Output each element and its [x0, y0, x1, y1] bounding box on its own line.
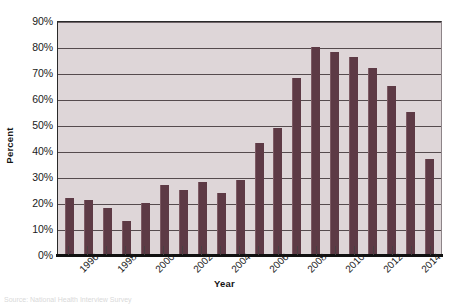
bar-series	[58, 22, 441, 255]
y-axis-tick-label: 30%	[32, 171, 53, 183]
plot-area	[57, 21, 442, 255]
bar-slot	[268, 22, 287, 255]
bar-slot	[60, 22, 79, 255]
bar-slot	[250, 22, 269, 255]
x-axis-tick-slot	[211, 246, 230, 255]
x-axis-tick-slot	[326, 246, 345, 255]
x-axis-tick-slot	[364, 246, 383, 255]
bar-slot	[306, 22, 325, 255]
bar	[292, 78, 301, 255]
bar	[387, 86, 396, 255]
x-axis-title: Year	[0, 278, 449, 289]
y-axis-tick-label: 60%	[32, 93, 53, 105]
y-axis-title: Percent	[2, 100, 16, 190]
x-axis-tick-slot	[288, 246, 307, 255]
bar-slot	[231, 22, 250, 255]
x-axis-tick-slot	[97, 246, 116, 255]
x-axis-tick-mark	[87, 246, 88, 255]
bar-slot	[363, 22, 382, 255]
x-axis-tick-mark	[335, 246, 336, 255]
x-axis-tick-mark	[220, 246, 221, 255]
bar	[406, 112, 415, 255]
bar	[198, 182, 207, 255]
bar	[425, 159, 434, 255]
bar	[349, 57, 358, 255]
x-axis-tick-mark	[373, 246, 374, 255]
bar	[311, 47, 320, 255]
x-axis-tick-mark	[258, 246, 259, 255]
y-axis-tick-label: 10%	[32, 223, 53, 235]
x-axis-tick-mark	[106, 246, 107, 255]
x-axis-tick-slot	[249, 246, 268, 255]
x-axis-tick-slot	[402, 246, 421, 255]
bar	[255, 143, 264, 255]
x-axis-tick-mark	[411, 246, 412, 255]
x-axis-tick-mark	[125, 246, 126, 255]
x-axis-tick-mark	[144, 246, 145, 255]
bar-slot	[212, 22, 231, 255]
x-axis-tick-marks	[57, 246, 442, 255]
bar-slot	[193, 22, 212, 255]
x-axis-tick-slot	[59, 246, 78, 255]
bar-slot	[136, 22, 155, 255]
bar-slot	[420, 22, 439, 255]
x-axis-tick-mark	[68, 246, 69, 255]
y-axis-title-text: Percent	[4, 127, 15, 163]
bar-slot	[98, 22, 117, 255]
y-axis-tick-label: 90%	[32, 15, 53, 27]
y-axis-tick-labels: 90%80%70%60%50%40%30%20%10%0%	[18, 14, 56, 262]
x-axis-tick-slot	[135, 246, 154, 255]
source-note: Source: National Health Interview Survey	[4, 296, 244, 305]
bar	[273, 128, 282, 255]
bar	[236, 180, 245, 255]
bar-slot	[344, 22, 363, 255]
bar-slot	[382, 22, 401, 255]
x-axis-tick-mark	[297, 246, 298, 255]
bar-slot	[174, 22, 193, 255]
bar	[160, 185, 169, 255]
x-axis-tick-mark	[182, 246, 183, 255]
bar	[330, 52, 339, 255]
bar-slot	[79, 22, 98, 255]
y-axis-tick-label: 50%	[32, 119, 53, 131]
x-axis-tick-slot	[173, 246, 192, 255]
y-axis-tick-label: 70%	[32, 67, 53, 79]
y-axis-tick-label: 40%	[32, 145, 53, 157]
bar-slot	[325, 22, 344, 255]
bar-slot	[117, 22, 136, 255]
bar-chart-figure: Percent 90%80%70%60%50%40%30%20%10%0% 19…	[0, 0, 449, 305]
y-axis-tick-label: 80%	[32, 41, 53, 53]
y-axis-tick-label: 20%	[32, 197, 53, 209]
bar-slot	[287, 22, 306, 255]
x-axis-tick-mark	[163, 246, 164, 255]
bar-slot	[155, 22, 174, 255]
bar	[368, 68, 377, 255]
y-axis-tick-label: 0%	[38, 249, 53, 261]
bar-slot	[401, 22, 420, 255]
x-axis-tick-mark	[201, 246, 202, 255]
